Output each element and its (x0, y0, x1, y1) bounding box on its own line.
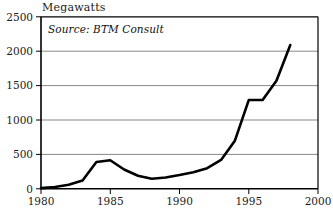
y-tick-label: 2500 (6, 11, 33, 23)
chart-plot-area: 2500 2000 1500 1000 500 0 1980 1985 1990… (0, 0, 333, 213)
x-tick-label: 1985 (97, 195, 124, 207)
chart-series-line (41, 45, 290, 188)
y-tick-label: 1000 (6, 114, 33, 126)
y-tick-label: 2000 (6, 45, 33, 57)
y-tick-label: 0 (26, 183, 33, 195)
y-tick-label: 500 (13, 148, 33, 160)
chart-figure: Megawatts Source: BTM Consult (0, 0, 333, 213)
chart-y-tick-labels: 2500 2000 1500 1000 500 0 (6, 11, 33, 195)
x-tick-label: 1980 (28, 195, 55, 207)
y-tick-label: 1500 (6, 79, 33, 91)
chart-gridlines (41, 51, 318, 154)
chart-x-ticks (41, 189, 318, 194)
x-tick-label: 1990 (166, 195, 193, 207)
chart-x-tick-labels: 1980 1985 1990 1995 2000 (28, 195, 332, 207)
x-tick-label: 1995 (235, 195, 262, 207)
x-tick-label: 2000 (305, 195, 332, 207)
chart-frame (41, 17, 318, 189)
